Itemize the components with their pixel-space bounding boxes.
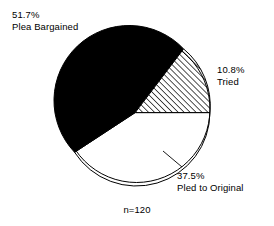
pie-label-plea-bargained-name: Plea Bargained bbox=[12, 21, 78, 33]
pie-label-pled-to-original-percent: 37.5% bbox=[177, 170, 244, 182]
pie-label-plea-bargained-percent: 51.7% bbox=[12, 9, 78, 21]
pie-label-pled-to-original-name: Pled to Original bbox=[177, 182, 244, 194]
pie-chart-figure: 51.7% Plea Bargained 10.8% Tried 37.5% P… bbox=[0, 0, 274, 226]
sample-size-caption: n=120 bbox=[0, 204, 274, 216]
pie-label-tried-percent: 10.8% bbox=[217, 64, 244, 76]
pie-label-tried: 10.8% Tried bbox=[217, 64, 244, 87]
pie-label-tried-name: Tried bbox=[217, 76, 244, 88]
pie-label-plea-bargained: 51.7% Plea Bargained bbox=[12, 9, 78, 32]
pie-label-pled-to-original: 37.5% Pled to Original bbox=[177, 170, 244, 193]
